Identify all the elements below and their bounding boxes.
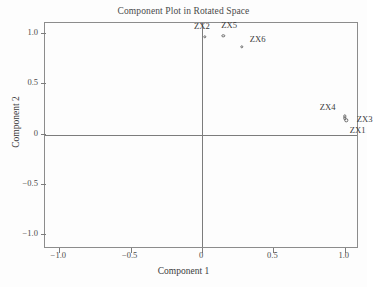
data-point-marker [203,35,206,38]
data-point-label: ZX2 [194,21,210,31]
x-tick-label: 0 [199,250,203,260]
data-point-marker [344,119,347,122]
data-point-label: ZX6 [250,34,266,44]
x-tick-label: 0.5 [267,250,278,260]
x-tick-label: −1.0 [51,250,66,260]
x-tick-label: −0.5 [122,250,137,260]
y-tick-mark [41,234,46,235]
y-axis-title: Component 2 [11,62,21,182]
data-point-label: ZX1 [350,125,366,135]
horizontal-zero-axis-line [45,135,357,136]
data-point-label: ZX3 [357,114,373,124]
y-tick-label: 1.0 [12,27,38,37]
data-point-label: ZX4 [320,102,336,112]
y-tick-mark [41,184,46,185]
x-tick-label: 1.0 [338,250,349,260]
plot-area: ZX2ZX5ZX6ZX4ZX3ZX1 [44,22,358,248]
y-tick-mark [41,83,46,84]
y-tick-mark [41,33,46,34]
data-point-marker [222,34,225,37]
data-point-marker [240,45,243,48]
x-axis-title: Component 1 [0,266,367,276]
y-tick-mark [41,134,46,135]
page-title: Component Plot in Rotated Space [0,6,367,16]
y-tick-label: −1.0 [12,228,38,238]
data-point-label: ZX5 [221,20,237,30]
